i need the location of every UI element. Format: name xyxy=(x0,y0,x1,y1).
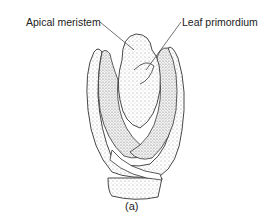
shoot-apex-illustration xyxy=(0,0,268,221)
apical-meristem-pointer xyxy=(100,22,134,50)
leaf-primordium-label: Leaf primordium xyxy=(182,16,258,28)
apical-meristem-label: Apical meristem xyxy=(26,16,101,28)
stem-base xyxy=(108,178,162,199)
apical-meristem-dome xyxy=(118,34,160,128)
figure-caption: (a) xyxy=(125,200,138,212)
